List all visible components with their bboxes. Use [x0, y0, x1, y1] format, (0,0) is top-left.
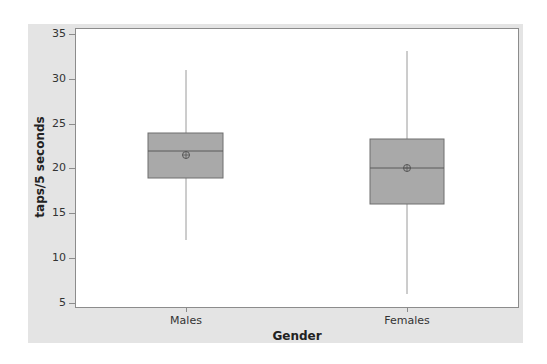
y-tick-30: [69, 79, 75, 80]
mean-marker-males-icon: [183, 152, 190, 159]
y-tick-20: [69, 168, 75, 169]
x-tick-label-males: Males: [136, 314, 236, 327]
x-tick-females: [407, 308, 408, 312]
y-tick-label: 5: [40, 297, 66, 309]
y-tick-5: [69, 303, 75, 304]
boxplot-svg: [0, 0, 547, 364]
box-body-males: [148, 133, 223, 178]
y-tick-label: 35: [40, 28, 66, 40]
box-females: [370, 51, 444, 294]
x-tick-label-females: Females: [357, 314, 457, 327]
mean-marker-females-icon: [404, 165, 411, 172]
y-tick-15: [69, 213, 75, 214]
y-tick-label: 10: [40, 252, 66, 264]
y-axis-title: taps/5 seconds: [33, 97, 47, 237]
x-axis-title: Gender: [247, 329, 347, 343]
x-tick-males: [186, 308, 187, 312]
y-tick-25: [69, 124, 75, 125]
box-males: [148, 70, 223, 240]
y-tick-10: [69, 258, 75, 259]
y-tick-label: 30: [40, 73, 66, 85]
y-tick-35: [69, 34, 75, 35]
